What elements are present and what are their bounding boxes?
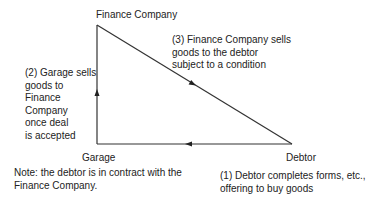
node-debtor: Debtor (286, 152, 316, 165)
node-finance-company: Finance Company (96, 9, 177, 22)
contract-note: Note: the debtor is in contract with the… (14, 167, 182, 192)
step-2-label: (2) Garage sells goods to Finance Compan… (25, 67, 96, 142)
step-1-label: (1) Debtor completes forms, etc., offeri… (220, 170, 366, 195)
node-garage: Garage (82, 152, 115, 165)
arrow-left-icon (185, 142, 192, 147)
hire-purchase-diagram: Finance Company Garage Debtor (3) Financ… (0, 0, 369, 201)
step-3-label: (3) Finance Company sells goods to the d… (172, 34, 291, 72)
